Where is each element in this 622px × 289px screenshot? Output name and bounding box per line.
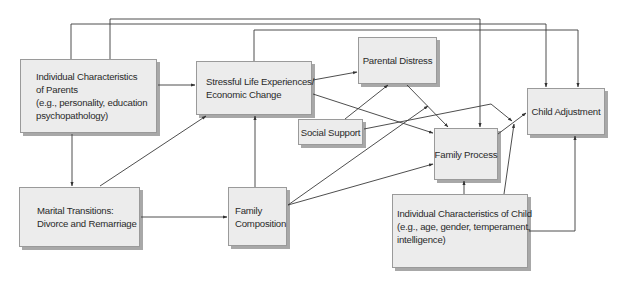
node-stressful-life-experiences: Stressful Life Experiences/ Economic Cha…	[196, 61, 312, 115]
node-label: Social Support	[301, 126, 361, 139]
node-family-composition: Family Composition	[228, 187, 287, 246]
node-marital-transitions: Marital Transitions: Divorce and Remarri…	[19, 187, 140, 247]
edge-parental-distress-to-family-process	[407, 85, 448, 127]
node-label: Divorce and Remarriage	[37, 217, 139, 230]
edge-family-process-to-child-adjustment	[498, 113, 526, 134]
node-label: Marital Transitions:	[37, 204, 139, 217]
diagram-canvas: Individual Characteristics of Parents (e…	[0, 0, 622, 289]
node-label: (e.g., age, gender, temperament,	[397, 220, 527, 233]
node-label: Parental Distress	[363, 54, 433, 67]
node-label: Family Process	[435, 148, 498, 161]
edge-child-characteristics-to-child-adjustment	[529, 136, 575, 231]
node-label: Stressful Life Experiences/	[206, 75, 311, 88]
node-family-process: Family Process	[434, 128, 498, 180]
node-label: psychopathology)	[36, 109, 156, 122]
node-social-support: Social Support	[298, 119, 363, 145]
node-label: Individual Characteristics of Child	[397, 207, 527, 220]
node-label: Composition	[235, 217, 286, 230]
edge-stressful-to-parental-distress	[313, 72, 357, 80]
node-label: intelligence)	[397, 233, 527, 246]
node-label: Family	[235, 204, 286, 217]
node-parental-distress: Parental Distress	[358, 37, 437, 84]
node-label: Individual Characteristics	[36, 70, 156, 83]
node-child-characteristics: Individual Characteristics of Child (e.g…	[392, 194, 528, 268]
edge-social-support-to-parental-distress	[345, 85, 388, 119]
node-child-adjustment: Child Adjustment	[527, 88, 605, 135]
node-label: of Parents	[36, 83, 156, 96]
node-label: (e.g., personality, education	[36, 96, 156, 109]
edge-social-support-to-child-adjustment	[364, 104, 512, 129]
node-label: Economic Change	[206, 88, 311, 101]
node-label: Child Adjustment	[532, 105, 601, 118]
node-parent-characteristics: Individual Characteristics of Parents (e…	[20, 59, 157, 133]
edge-child-characteristics-to-child-adjustment-bend	[504, 124, 514, 194]
